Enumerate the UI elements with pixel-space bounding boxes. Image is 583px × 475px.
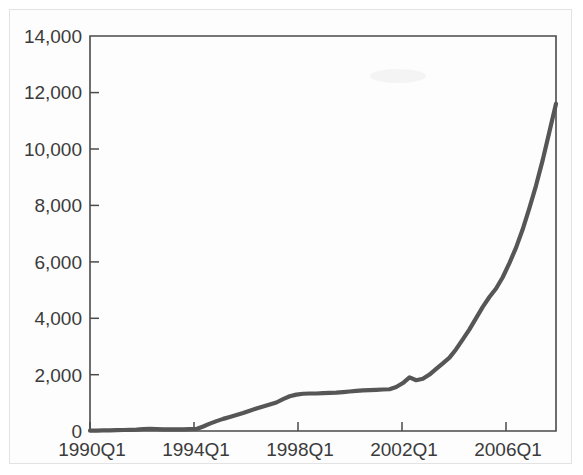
y-tick-label: 14,000 (24, 26, 82, 47)
x-tick-label: 1998Q1 (266, 439, 334, 460)
y-tick-label: 10,000 (24, 139, 82, 160)
figure-container: 14,000 12,000 10,000 8,000 6,000 4,000 2… (0, 0, 583, 475)
line-chart: 14,000 12,000 10,000 8,000 6,000 4,000 2… (0, 0, 583, 475)
plot-axes-frame (90, 36, 556, 431)
y-tick-label: 12,000 (24, 82, 82, 103)
x-tick-label: 2006Q1 (474, 439, 542, 460)
x-axis-tick-labels: 1990Q1 1994Q1 1998Q1 2002Q1 2006Q1 (58, 439, 542, 460)
x-tick-label: 2002Q1 (370, 439, 438, 460)
y-tick-label: 8,000 (34, 195, 82, 216)
scan-smudge-artifact (370, 69, 426, 83)
x-tick-label: 1994Q1 (162, 439, 230, 460)
y-axis-tick-labels: 14,000 12,000 10,000 8,000 6,000 4,000 2… (24, 26, 82, 442)
x-tick-label: 1990Q1 (58, 439, 126, 460)
data-series-line (90, 104, 556, 431)
y-tick-label: 4,000 (34, 308, 82, 329)
y-tick-label: 6,000 (34, 252, 82, 273)
y-axis-tick-marks (90, 93, 99, 375)
y-tick-label: 2,000 (34, 365, 82, 386)
